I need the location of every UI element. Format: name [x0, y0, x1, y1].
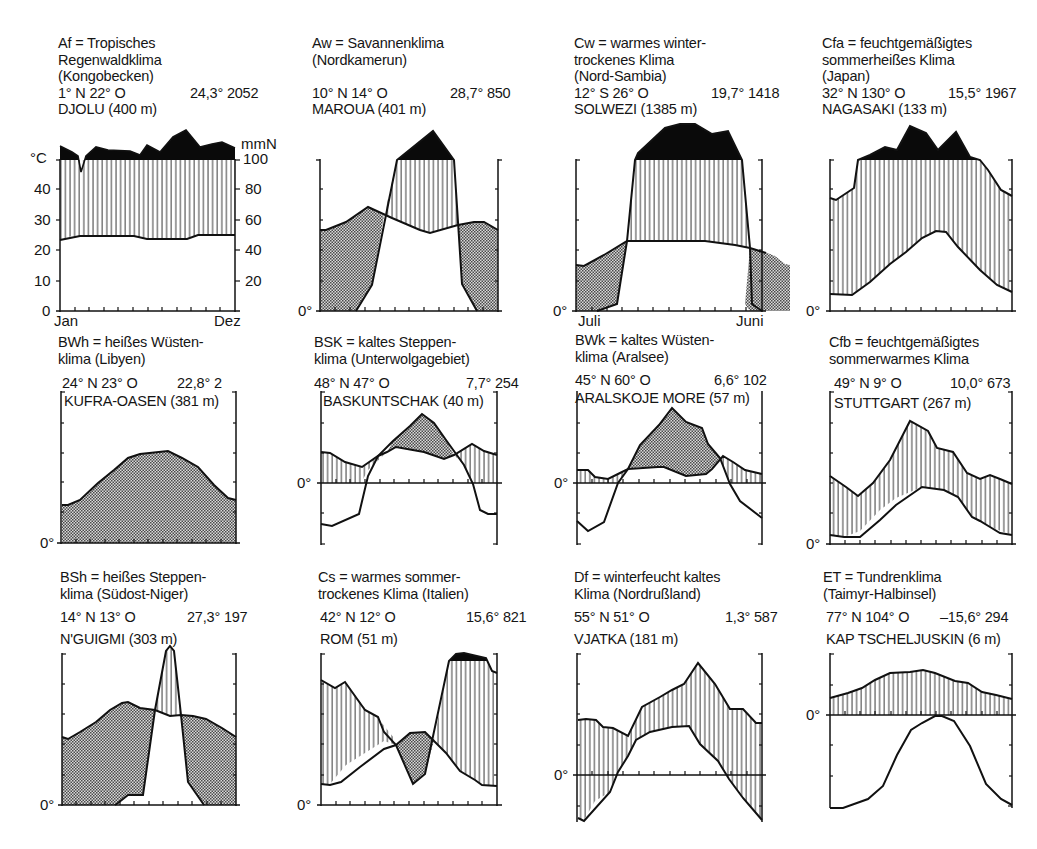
- annual-precip: 587: [754, 609, 778, 625]
- chart-aralskoje-more: [573, 391, 766, 545]
- month-start-label-south: Juli: [578, 313, 601, 329]
- title-line: trockenes Klima (Italien): [318, 586, 469, 603]
- precip-tick-40: 40: [245, 242, 262, 258]
- annual-temp: –15,6°: [940, 609, 981, 625]
- chart-title-cs: Cs = warmes sommer- trockenes Klima (Ita…: [318, 569, 469, 602]
- coords-kufra: 24° N 23° O: [62, 375, 138, 392]
- title-line: klima (Libyen): [58, 351, 203, 368]
- title-line: klima (Aralsee): [575, 349, 714, 366]
- coords-djolu: 1° N 22° O: [58, 85, 126, 102]
- station-kap-tscheljuskin: KAP TSCHELJUSKIN (6 m): [826, 631, 1001, 648]
- annual-temp: 28,7°: [450, 85, 483, 101]
- chart-nagasaki: [826, 126, 1016, 312]
- title-line: (Taimyr-Halbinsel): [823, 586, 941, 603]
- title-line: Regenwaldklima: [58, 52, 162, 69]
- annual-values-aralskoje-more: 6,6° 102: [714, 372, 767, 389]
- annual-precip: 254: [495, 375, 519, 391]
- chart-title-df: Df = winterfeucht kaltes Klima (Nordrußl…: [574, 569, 720, 602]
- annual-precip: 197: [224, 609, 248, 625]
- title-line: trockenes Klima: [574, 52, 706, 69]
- temp-axis-unit: °C: [30, 150, 47, 166]
- annual-precip: 2: [214, 375, 222, 391]
- zero-label-aralskoje-more: 0°: [554, 475, 568, 491]
- chart-kufra: [57, 391, 240, 544]
- chart-title-cfb: Cfb = feuchtgemäßigtes sommerwarmes Klim…: [829, 334, 979, 367]
- coords-maroua: 10° N 14° O: [312, 85, 388, 102]
- annual-temp: 1,3°: [725, 609, 750, 625]
- title-line: ET = Tundrenklima: [823, 569, 941, 586]
- coords-aralskoje-more: 45° N 60° O: [575, 372, 651, 389]
- chart-nguigmi: [58, 646, 240, 806]
- title-line: Cs = warmes sommer-: [318, 569, 469, 586]
- annual-values-kufra: 22,8° 2: [177, 375, 222, 392]
- station-maroua: MAROUA (401 m): [312, 101, 426, 118]
- annual-temp: 10,0°: [950, 375, 983, 391]
- annual-values-solwezi: 19,7° 1418: [711, 85, 779, 102]
- title-line: (Nord-Sambia): [574, 68, 706, 85]
- annual-precip: 294: [985, 609, 1009, 625]
- title-line: sommerheißes Klima: [822, 52, 972, 69]
- zero-label-kufra: 0°: [40, 535, 54, 551]
- month-end-label: Dez: [214, 313, 241, 329]
- coords-baskuntschak: 48° N 47° O: [314, 375, 390, 392]
- annual-precip: 1967: [985, 85, 1016, 101]
- title-line: BWk = kaltes Wüsten-: [575, 332, 714, 349]
- annual-values-stuttgart: 10,0° 673: [950, 375, 1010, 392]
- title-line: sommerwarmes Klima: [829, 351, 979, 368]
- zero-label-solwezi: 0°: [553, 303, 567, 319]
- annual-temp: 24,3°: [190, 85, 223, 101]
- coords-kap-tscheljuskin: 77° N 104° O: [826, 609, 909, 626]
- coords-nguigmi: 14° N 13° O: [60, 609, 136, 626]
- chart-kap-tscheljuskin: [826, 653, 1016, 808]
- title-line: Af = Tropisches: [58, 35, 162, 52]
- annual-precip: 1418: [748, 85, 779, 101]
- chart-title-bwk: BWk = kaltes Wüsten- klima (Aralsee): [575, 332, 714, 365]
- station-vjatka: VJATKA (181 m): [574, 631, 678, 648]
- arid-area-right: [181, 715, 236, 805]
- coords-solwezi: 12° S 26° O: [574, 85, 649, 102]
- chart-vjatka: [573, 653, 766, 822]
- zero-label-nagasaki: 0°: [806, 303, 820, 319]
- title-line: Cw = warmes winter-: [574, 35, 706, 52]
- annual-precip: 821: [503, 609, 527, 625]
- title-line: (Nordkamerun): [312, 52, 444, 69]
- station-stuttgart: STUTTGART (267 m): [834, 395, 971, 412]
- chart-title-cw: Cw = warmes winter- trockenes Klima (Nor…: [574, 35, 706, 85]
- arid-area-left: [62, 702, 155, 805]
- month-end-label-south: Juni: [736, 313, 764, 329]
- station-nagasaki: NAGASAKI (133 m): [822, 101, 947, 118]
- precip-tick-80: 80: [245, 181, 262, 197]
- arid-area-left: [576, 241, 627, 311]
- chart-title-bsk: BSK = kaltes Steppen- klima (Unterwolgag…: [314, 334, 470, 367]
- annual-values-vjatka: 1,3° 587: [725, 609, 778, 626]
- zero-label-vjatka: 0°: [554, 767, 568, 783]
- annual-values-djolu: 24,3° 2052: [190, 85, 258, 102]
- chart-title-cfa: Cfa = feuchtgemäßigtes sommerheißes Klim…: [822, 35, 972, 85]
- humid-area: [830, 421, 1012, 537]
- title-line: BSK = kaltes Steppen-: [314, 334, 470, 351]
- title-line: klima (Südost-Niger): [60, 586, 206, 603]
- zero-label-rom: 0°: [297, 797, 311, 813]
- title-line: Klima (Nordrußland): [574, 586, 720, 603]
- temp-tick-40: 40: [34, 181, 51, 197]
- title-line: Aw = Savannenklima: [312, 35, 444, 52]
- title-line: Df = winterfeucht kaltes: [574, 569, 720, 586]
- zero-label-maroua: 0°: [298, 303, 312, 319]
- precip-tick-60: 60: [245, 212, 262, 228]
- annual-temp: 19,7°: [711, 85, 744, 101]
- arid-area-right: [458, 222, 498, 311]
- annual-temp: 6,6°: [714, 372, 739, 388]
- temp-tick-10: 10: [34, 273, 51, 289]
- zero-label-stuttgart: 0°: [806, 536, 820, 552]
- month-start-label: Jan: [54, 313, 78, 329]
- station-baskuntschak: BASKUNTSCHAK (40 m): [323, 393, 484, 410]
- annual-precip: 2052: [227, 85, 258, 101]
- temperature-curve: [830, 716, 1012, 808]
- chart-solwezi: [572, 124, 790, 312]
- chart-title-bsh: BSh = heißes Steppen- klima (Südost-Nige…: [60, 569, 206, 602]
- humid-area-right: [720, 456, 762, 483]
- arid-area-left: [320, 207, 384, 311]
- zero-label-kap-tscheljuskin: 0°: [806, 707, 820, 723]
- station-djolu: DJOLU (400 m): [58, 101, 157, 118]
- title-line: (Japan): [822, 68, 972, 85]
